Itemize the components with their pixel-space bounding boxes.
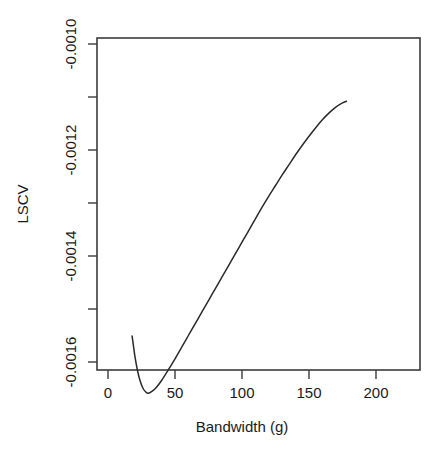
y-axis-title: LSCV: [14, 184, 31, 223]
x-tick-label-1: 50: [167, 384, 184, 401]
x-axis-ticks: [108, 370, 376, 379]
x-tick-label-3: 150: [296, 384, 321, 401]
y-tick-label-1: -0.0012: [62, 125, 79, 176]
lscv-line-chart: 0 50 100 150 200 -0.0010 -0.0012 -0.0014…: [0, 0, 442, 463]
x-axis-title: Bandwidth (g): [196, 418, 289, 435]
y-tick-label-0: -0.0010: [62, 19, 79, 70]
y-tick-label-3: -0.0016: [62, 337, 79, 388]
x-tick-label-4: 200: [363, 384, 388, 401]
plot-frame: [97, 38, 420, 370]
chart-figure: 0 50 100 150 200 -0.0010 -0.0012 -0.0014…: [0, 0, 442, 463]
x-tick-label-0: 0: [104, 384, 112, 401]
y-tick-label-2: -0.0014: [62, 231, 79, 282]
lscv-curve: [132, 101, 346, 393]
y-axis-ticks: [88, 44, 97, 362]
y-axis-tick-labels: -0.0010 -0.0012 -0.0014 -0.0016: [62, 19, 79, 388]
x-tick-label-2: 100: [229, 384, 254, 401]
